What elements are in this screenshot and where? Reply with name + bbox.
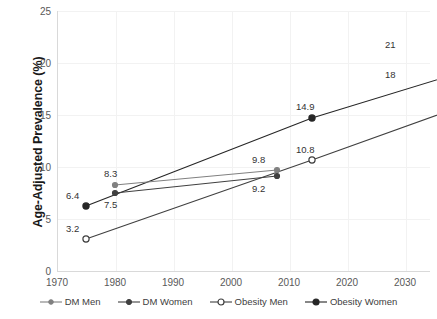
data-label-obesity-men-2050: 18 xyxy=(385,70,396,80)
point-dm-men-1980 xyxy=(113,183,118,188)
data-label-dm-men-1980: 8.3 xyxy=(104,169,117,179)
data-label-obesity-men-1975: 3.2 xyxy=(66,224,79,234)
data-label-dm-women-1980: 7.5 xyxy=(104,200,117,210)
point-obesity-women-2014 xyxy=(309,115,315,121)
legend-marker-obesity-men-icon xyxy=(210,297,232,307)
legend-label-obesity-women: Obesity Women xyxy=(330,297,397,307)
legend-item-dm-women[interactable]: DM Women xyxy=(118,297,193,307)
legend-label-dm-men: DM Men xyxy=(65,297,101,307)
point-obesity-men-2014 xyxy=(309,157,315,163)
data-label-obesity-men-2014: 10.8 xyxy=(296,145,315,155)
chart-container: Age-Adjusted Prevalence (%) 25 20 15 10 … xyxy=(0,0,437,319)
legend-item-obesity-men[interactable]: Obesity Men xyxy=(210,297,288,307)
legend-item-obesity-women[interactable]: Obesity Women xyxy=(305,297,397,307)
point-obesity-women-1975 xyxy=(83,203,89,209)
series-layer xyxy=(0,0,437,319)
legend-item-dm-men[interactable]: DM Men xyxy=(40,297,101,307)
point-dm-men-2008 xyxy=(275,168,280,173)
legend-marker-obesity-women-icon xyxy=(305,297,327,307)
legend-label-obesity-men: Obesity Men xyxy=(235,297,288,307)
point-dm-women-2008 xyxy=(275,174,280,179)
point-dm-women-1980 xyxy=(113,191,118,196)
data-label-obesity-women-1975: 6.4 xyxy=(66,191,79,201)
data-label-obesity-women-2014: 14.9 xyxy=(296,102,315,112)
chart-legend: DM Men DM Women Obesity Men Obesity Wome… xyxy=(0,297,437,307)
point-obesity-men-1975 xyxy=(83,236,89,242)
legend-marker-dm-men-icon xyxy=(40,297,62,307)
legend-label-dm-women: DM Women xyxy=(143,297,193,307)
legend-marker-dm-women-icon xyxy=(118,297,140,307)
data-label-dm-women-2008: 9.2 xyxy=(252,184,265,194)
data-label-dm-men-2008: 9.8 xyxy=(252,155,265,165)
data-label-obesity-women-2050: 21 xyxy=(385,40,396,50)
